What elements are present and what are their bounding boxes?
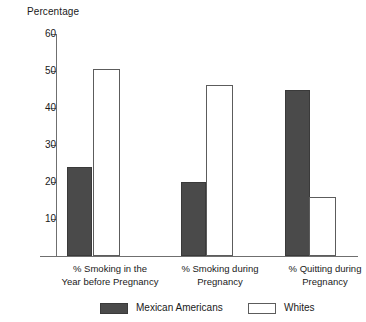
legend-label: Whites <box>284 302 315 314</box>
bar-chart: Percentage 605040302010 % Smoking in the… <box>0 0 366 322</box>
bar <box>285 90 310 257</box>
bar <box>93 69 120 256</box>
x-category-label: % Quitting during Pregnancy <box>265 262 366 288</box>
legend-swatch-light <box>248 303 276 314</box>
x-axis-line <box>40 256 358 257</box>
x-category-label: % Smoking during Pregnancy <box>160 262 280 288</box>
bar <box>181 182 206 256</box>
y-tick-label: 10 <box>30 214 56 224</box>
y-tick-label: 60 <box>30 29 56 39</box>
bar <box>67 167 92 256</box>
x-axis-category-labels: % Smoking in the Year before Pregnancy% … <box>40 262 360 296</box>
bar <box>206 85 233 256</box>
legend-swatch-dark <box>100 303 128 314</box>
chart-legend: Mexican AmericansWhites <box>0 300 366 320</box>
x-category-label: % Smoking in the Year before Pregnancy <box>40 262 180 288</box>
y-tick-label: 30 <box>30 140 56 150</box>
bar <box>309 197 336 256</box>
y-tick-label: 40 <box>30 103 56 113</box>
plot-area <box>56 34 358 256</box>
legend-item: Whites <box>248 300 315 316</box>
y-tick-label: 50 <box>30 66 56 76</box>
y-tick-label: 20 <box>30 177 56 187</box>
y-axis-title: Percentage <box>27 6 79 18</box>
legend-item: Mexican Americans <box>100 300 223 316</box>
legend-label: Mexican Americans <box>136 302 223 314</box>
